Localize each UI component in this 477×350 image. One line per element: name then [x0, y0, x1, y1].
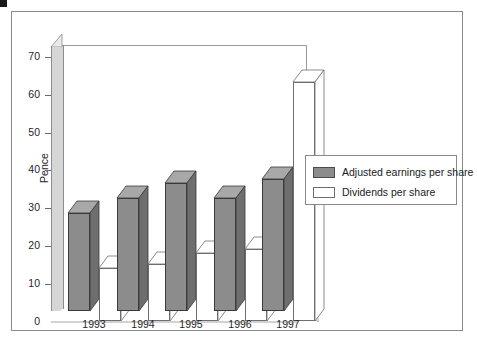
y-tick-label-20: 20 — [10, 240, 40, 250]
y-axis-slab — [51, 46, 64, 311]
bar-1993-earnings — [68, 213, 90, 311]
bar-3d-side-and-top — [165, 171, 196, 311]
y-tick-label-10: 10 — [10, 278, 40, 288]
bar-1995-earnings — [165, 183, 187, 311]
bar-3d-side-and-top — [214, 186, 245, 311]
x-tick-label-1997: 1997 — [261, 318, 315, 330]
y-tick-label-40: 40 — [10, 164, 40, 174]
legend-label-dividends: Dividends per share — [342, 186, 435, 198]
bar-3d-side-and-top — [117, 186, 148, 311]
y-tick-10 — [45, 284, 51, 285]
legend-item-earnings: Adjusted earnings per share — [313, 163, 450, 181]
y-tick-20 — [45, 246, 51, 247]
y-axis-title: Pence — [38, 128, 50, 208]
x-tick-label-1996: 1996 — [213, 318, 267, 330]
y-tick-label-0: 0 — [10, 316, 40, 326]
y-tick-label-30: 30 — [10, 202, 40, 212]
white-swatch-icon — [313, 187, 335, 198]
legend-item-dividends: Dividends per share — [313, 183, 450, 201]
bar-3d-side-and-top — [68, 201, 99, 311]
y-tick-60 — [45, 95, 51, 96]
plot-wall-top-edge — [62, 45, 307, 46]
bar-1994-earnings — [117, 198, 139, 311]
dark-gray-swatch-icon — [313, 167, 335, 178]
y-tick-70 — [45, 57, 51, 58]
y-tick-label-70: 70 — [10, 51, 40, 61]
x-tick-label-1995: 1995 — [164, 318, 218, 330]
chart-plot-area: 70 60 50 40 30 20 10 0 Pence — [12, 12, 464, 332]
bar-1997-earnings — [262, 179, 284, 311]
legend-label-earnings: Adjusted earnings per share — [342, 166, 473, 178]
y-tick-30 — [45, 208, 51, 209]
bar-1996-earnings — [214, 198, 236, 311]
page-corner-mark — [0, 0, 7, 7]
y-axis-slab-top-face — [51, 34, 63, 47]
x-tick-label-1993: 1993 — [67, 318, 121, 330]
bar-3d-side-and-top — [262, 167, 293, 311]
y-tick-label-60: 60 — [10, 89, 40, 99]
chart-figure-frame: 70 60 50 40 30 20 10 0 Pence — [11, 11, 463, 331]
y-tick-label-50: 50 — [10, 127, 40, 137]
x-tick-label-1994: 1994 — [116, 318, 170, 330]
chart-legend: Adjusted earnings per share Dividends pe… — [305, 155, 457, 205]
